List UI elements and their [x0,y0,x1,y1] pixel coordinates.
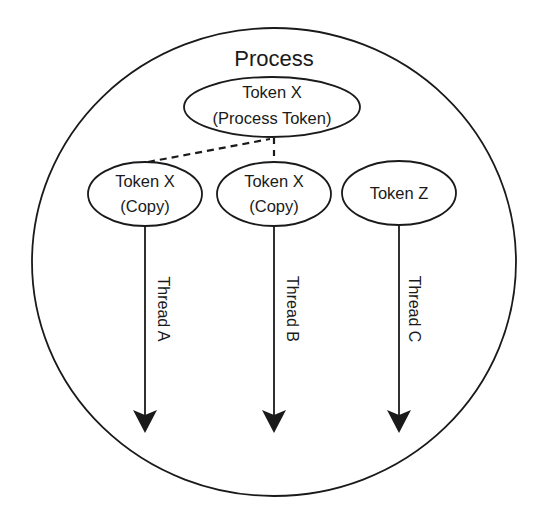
token-a-label-line2: (Copy) [120,197,170,215]
token-node-thread-c: Token Z [342,161,456,225]
thread-c-label: Thread C [406,276,423,343]
thread-arrow-a [133,226,157,433]
token-c-label: Token Z [370,184,429,202]
process-title: Process [234,46,313,71]
copy-links [148,138,274,162]
process-token-node: Token X (Process Token) [184,77,360,137]
thread-arrow-b [262,226,286,433]
thread-b-label: Thread B [284,276,301,342]
token-b-label-line1: Token X [244,172,304,190]
process-token-label-line1: Token X [242,83,302,101]
process-token-diagram: Process Token X (Process Token) Token X … [0,0,535,515]
thread-a-label: Thread A [155,277,172,342]
token-a-label-line1: Token X [115,172,175,190]
token-b-label-line2: (Copy) [249,197,299,215]
token-node-thread-b: Token X (Copy) [217,162,331,226]
process-token-label-line2: (Process Token) [213,109,332,127]
token-node-thread-a: Token X (Copy) [88,162,202,226]
dashed-link-to-copy-a [148,139,270,162]
